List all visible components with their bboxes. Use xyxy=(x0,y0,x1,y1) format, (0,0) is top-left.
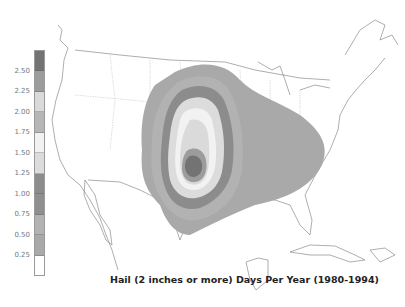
legend-swatch xyxy=(35,133,44,153)
legend-tick: 1.75 xyxy=(4,128,30,136)
legend-tick: 2.00 xyxy=(4,108,30,116)
legend-tick: 0.75 xyxy=(4,210,30,218)
legend-swatch xyxy=(35,112,44,132)
legend-swatch xyxy=(35,92,44,112)
legend-swatch xyxy=(35,153,44,173)
legend-swatch xyxy=(35,256,44,275)
hail-contours xyxy=(142,64,325,235)
legend-tick: 0.50 xyxy=(4,231,30,239)
legend-tick: 1.00 xyxy=(4,190,30,198)
legend-swatch xyxy=(35,174,44,194)
legend-tick: 2.50 xyxy=(4,67,30,75)
legend-swatch xyxy=(35,235,44,255)
legend-swatch xyxy=(35,215,44,235)
map-title: Hail (2 inches or more) Days Per Year (1… xyxy=(110,274,379,285)
legend-tick: 2.25 xyxy=(4,87,30,95)
legend-swatch xyxy=(35,71,44,91)
legend-tick: 1.25 xyxy=(4,169,30,177)
hail-frequency-map xyxy=(0,0,405,307)
legend-tick: 1.50 xyxy=(4,149,30,157)
legend-tick: 0.25 xyxy=(4,251,30,259)
color-legend xyxy=(34,50,45,276)
legend-swatch xyxy=(35,51,44,71)
legend-swatch xyxy=(35,194,44,214)
